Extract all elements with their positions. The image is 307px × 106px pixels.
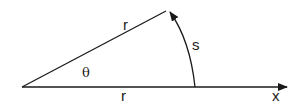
label-lower-radius: r [121, 87, 126, 104]
arc-length-diagram: r s θ r x [0, 0, 307, 106]
label-angle-theta: θ [82, 65, 90, 80]
label-upper-radius: r [123, 16, 128, 33]
label-x-axis: x [272, 87, 280, 104]
diagram-canvas: r s θ r x [0, 0, 307, 106]
label-arc: s [192, 36, 200, 53]
radius-ray [22, 11, 166, 87]
